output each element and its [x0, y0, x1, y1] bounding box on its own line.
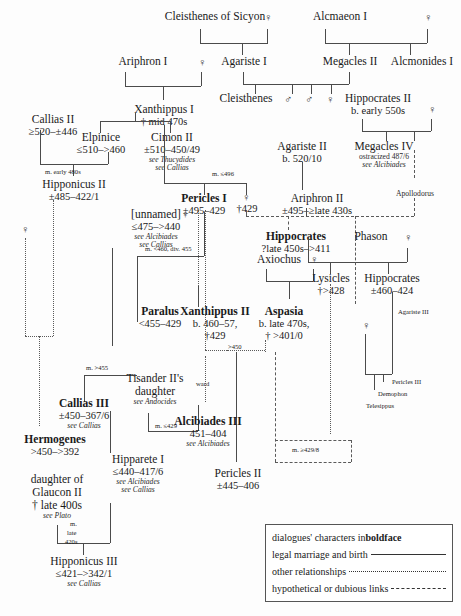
- person-name: Callias II: [13, 113, 93, 126]
- person-tisander-daughter: Tisander II's daughter see Andocides: [112, 372, 198, 406]
- connector: [427, 29, 428, 43]
- connector: [40, 164, 108, 165]
- female-symbol: ♀: [242, 192, 250, 203]
- connector: [40, 130, 41, 164]
- connector-dotted: [205, 350, 227, 351]
- person-cleisthenes: Cleisthenes: [208, 92, 284, 105]
- person-dates: b. late 470s,: [238, 318, 330, 330]
- person-name: Tisander II's: [112, 372, 198, 385]
- person-dates: >450–>392: [12, 446, 98, 458]
- marriage-note: m.: [70, 520, 77, 527]
- connector: [407, 248, 408, 262]
- connector: [362, 131, 431, 132]
- person-reference: see Alcibiades: [160, 440, 256, 449]
- female-symbol: ♀: [181, 209, 189, 220]
- person-megacles-ii: Megacles II: [316, 55, 384, 68]
- female-symbol: ♀: [404, 232, 412, 243]
- person-name-2: Glaucon II: [14, 486, 100, 499]
- connector: [349, 43, 350, 55]
- connector: [57, 525, 58, 543]
- person-dates: ≤421–>342/1: [40, 568, 128, 580]
- person-name: Apollodorus: [380, 190, 450, 199]
- connector: [201, 72, 202, 86]
- person-reference: see Callias: [40, 580, 128, 589]
- connector: [163, 86, 164, 100]
- person-pericles-iii: Pericles III: [392, 378, 421, 385]
- marriage-note: >450: [228, 343, 242, 350]
- person-name: Cleisthenes: [208, 92, 284, 105]
- legend-text: dialogues' characters in: [272, 532, 365, 543]
- connector: [135, 113, 136, 121]
- person-phason: Phason: [343, 230, 399, 243]
- connector-dotted: [205, 210, 206, 350]
- connector-dashed: [351, 440, 352, 462]
- connector: [125, 72, 126, 86]
- connector: [243, 84, 349, 85]
- connector: [164, 183, 246, 184]
- person-name: Alcibiades III: [160, 415, 256, 428]
- person-name: Aspasia: [238, 305, 330, 318]
- person-cimon-ii: Cimon II ±510–450/49 see Thucydides see …: [133, 131, 211, 173]
- connector: [362, 119, 363, 131]
- person-demophon: Demophon: [378, 390, 407, 397]
- person-dates: ±510–450/49: [133, 144, 211, 156]
- female-symbol: ♀: [310, 254, 318, 265]
- connector: [431, 119, 432, 131]
- person-dates: ≤510–>460: [70, 144, 132, 156]
- connector-dashed: [414, 150, 415, 178]
- person-dates: †>428: [303, 285, 359, 297]
- person-name: Pericles II: [196, 467, 280, 480]
- person-aspasia: Aspasia b. late 470s, † >401/0: [238, 305, 330, 341]
- person-hippocrates-brother: Hippocrates ?late 450s–>411: [248, 230, 344, 255]
- marriage-note: m. ≤496: [212, 170, 234, 177]
- person-name: Hippocrates: [356, 272, 428, 285]
- marriage-note: m. early 480s: [45, 168, 81, 175]
- connector: [243, 72, 244, 84]
- person-alcmaeon-i: Alcmaeon I: [295, 10, 385, 23]
- person-name: Ariphron II: [262, 192, 372, 205]
- connector: [200, 29, 201, 43]
- person-name: Alcmaeon I: [295, 10, 385, 23]
- person-dates: ±495–≥late 430s: [262, 205, 372, 217]
- person-elpinice: Elpinice ≤510–>460: [70, 131, 132, 156]
- person-reference: see Plato: [14, 512, 100, 521]
- connector: [267, 29, 268, 43]
- connector: [289, 281, 290, 299]
- legend-line-dotted: [349, 571, 446, 572]
- connector-dotted: [39, 336, 40, 426]
- female-symbol: ♀: [198, 57, 206, 68]
- person-hippocrates-ii: Hippocrates II b. early 550s: [336, 92, 420, 117]
- person-axiochus: Axiochus: [248, 253, 310, 266]
- person-hermogenes: Hermogenes >450–>392: [12, 433, 98, 458]
- person-dates: ±485–422/1: [34, 191, 114, 203]
- connector: [108, 152, 109, 164]
- person-apollodorus: Apollodorus: [380, 190, 450, 199]
- person-name-2: daughter: [112, 385, 198, 398]
- connector: [308, 262, 407, 263]
- female-symbol: ♀: [362, 320, 370, 331]
- connector-dashed: [275, 352, 276, 462]
- connector: [110, 503, 111, 543]
- connector-dashed: [246, 210, 247, 216]
- connector: [148, 413, 149, 431]
- person-reference: see Callias: [94, 486, 182, 495]
- person-dates: ≤440–417/6: [94, 466, 182, 478]
- connector-dashed: [414, 198, 415, 216]
- female-symbol: ♀: [264, 12, 272, 23]
- person-ariphron-i: Ariphron I: [103, 55, 183, 68]
- male-symbol: ♂: [305, 94, 313, 105]
- person-reference: see Callias: [44, 422, 124, 431]
- connector-dotted: [53, 200, 54, 336]
- connector: [164, 125, 165, 183]
- connector: [83, 543, 84, 555]
- legend-line-solid: [371, 554, 446, 555]
- person-name: Megacles IV: [343, 140, 425, 153]
- connector: [242, 43, 243, 55]
- legend-row-boldface: dialogues' characters in boldface: [272, 529, 446, 546]
- person-name: Agariste II: [263, 140, 341, 153]
- connector: [137, 256, 204, 257]
- connector: [383, 374, 384, 382]
- marriage-note: late: [67, 529, 77, 536]
- connector: [410, 43, 411, 55]
- person-name: Axiochus: [248, 253, 310, 266]
